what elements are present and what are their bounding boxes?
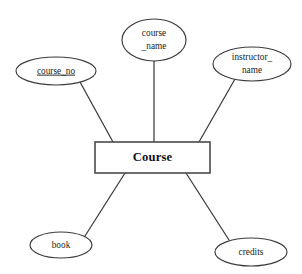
attribute-instructor-name[interactable]: instructor_ name (213, 47, 291, 81)
attribute-course-no[interactable]: course_no (16, 57, 96, 85)
connector-instructor-name (199, 79, 235, 142)
entity-course[interactable]: Course (95, 142, 210, 173)
credits-label: credits (239, 247, 264, 257)
attribute-course-name[interactable]: course _name (122, 19, 186, 61)
attribute-book[interactable]: book (30, 232, 92, 258)
connector-course-no (80, 82, 113, 142)
course-name-label-line2: _name (141, 41, 167, 51)
book-label: book (52, 240, 71, 250)
er-diagram-canvas: course_no course _name instructor_ name … (0, 0, 302, 274)
course-name-label-line1: course (142, 28, 166, 38)
er-diagram-svg: course_no course _name instructor_ name … (0, 0, 302, 274)
course-entity-label: Course (133, 150, 173, 164)
course-no-label: course_no (37, 66, 76, 76)
instructor-name-label-line2: name (242, 65, 262, 75)
attribute-credits[interactable]: credits (215, 238, 287, 266)
course-name-ellipse (122, 19, 186, 61)
connector-book (85, 173, 125, 236)
connector-credits (186, 173, 229, 240)
instructor-name-label-line1: instructor_ (232, 52, 273, 62)
